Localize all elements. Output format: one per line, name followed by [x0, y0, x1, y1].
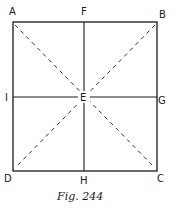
label-e: E	[80, 92, 86, 103]
label-g: G	[158, 95, 166, 106]
label-b: B	[159, 9, 166, 20]
label-a: A	[9, 6, 16, 17]
label-i: I	[5, 92, 8, 103]
label-d: D	[4, 173, 12, 184]
label-f: F	[81, 6, 87, 17]
figure-caption: Fig. 244	[56, 190, 103, 203]
label-h: H	[80, 175, 88, 186]
figure-diagram: A F B I E G D H C Fig. 244	[0, 0, 173, 209]
label-c: C	[157, 173, 164, 184]
